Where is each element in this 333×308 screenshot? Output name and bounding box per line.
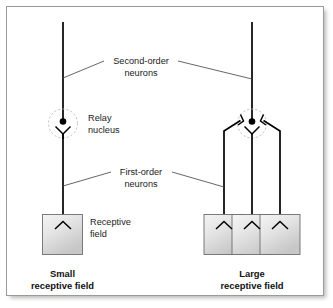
- first-order-terminal-arrow-right-1: [238, 115, 244, 126]
- annotation-relay-nucleus: Relay nucleus: [88, 113, 120, 135]
- caption-small-line2: receptive field: [31, 280, 94, 291]
- first-order-terminal-arrow-right-3: [261, 115, 267, 126]
- relay-nucleus-dendrite-left: [56, 127, 71, 135]
- leader-line-first-order-right: [172, 172, 224, 187]
- annotation-receptive-field: Receptive field: [90, 217, 131, 239]
- first-order-axon-right-3: [264, 121, 281, 223]
- label-receptive-field-line1: Receptive: [90, 217, 131, 227]
- relay-nucleus-soma-right: [249, 118, 256, 125]
- caption-small-line1: Small: [50, 268, 75, 279]
- label-first-order-line1: First-order: [120, 167, 162, 177]
- figure-root: Small receptive field: [0, 0, 333, 308]
- panel-large-receptive-field: Large receptive field: [204, 22, 300, 291]
- leader-line-second-order-right: [178, 61, 252, 79]
- label-first-order-line2: neurons: [124, 179, 158, 189]
- annotation-first-order-neurons: First-order neurons: [63, 167, 224, 189]
- leader-line-second-order-left: [63, 61, 104, 78]
- caption-large-line2: receptive field: [220, 280, 283, 291]
- relay-nucleus-dendrite-right: [245, 127, 260, 135]
- annotation-second-order-neurons: Second-order neurons: [63, 56, 252, 79]
- label-relay-nucleus-line1: Relay: [88, 113, 112, 123]
- caption-large-line1: Large: [239, 268, 265, 279]
- first-order-axon-right-1: [224, 121, 241, 223]
- receptive-field-box-left-1: [43, 215, 83, 255]
- panel-small-receptive-field: Small receptive field: [31, 22, 94, 291]
- leader-line-first-order-left: [63, 172, 111, 186]
- relay-nucleus-soma-left: [60, 118, 67, 125]
- label-receptive-field-line2: field: [90, 229, 107, 239]
- label-second-order-line1: Second-order: [113, 56, 169, 66]
- label-second-order-line2: neurons: [124, 68, 158, 78]
- label-relay-nucleus-line2: nucleus: [88, 125, 120, 135]
- receptive-field-convergence-diagram: Small receptive field: [0, 0, 333, 308]
